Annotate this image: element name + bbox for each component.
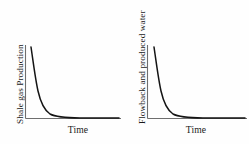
figure-container: Shale gas Production Time Flowback and p… bbox=[0, 0, 249, 144]
plot-area-left bbox=[24, 42, 122, 122]
decline-curve-right bbox=[154, 47, 245, 118]
chart-panel-flowback-and-produced-water: Flowback and produced water Time bbox=[124, 0, 249, 144]
x-axis-label-left: Time bbox=[38, 124, 118, 135]
decline-curve-svg-left bbox=[24, 42, 122, 122]
x-axis-label-right: Time bbox=[156, 124, 236, 135]
plot-area-right bbox=[146, 42, 248, 122]
decline-curve-svg-right bbox=[146, 42, 248, 122]
chart-panel-shale-gas-production: Shale gas Production Time bbox=[0, 0, 124, 144]
decline-curve-left bbox=[31, 47, 119, 118]
